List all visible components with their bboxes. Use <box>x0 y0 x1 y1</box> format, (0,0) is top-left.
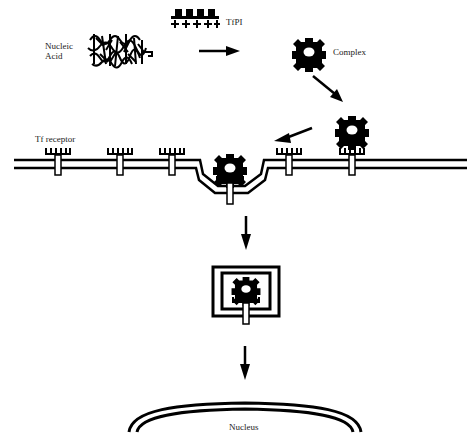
tf-receptor-label: Tf receptor <box>35 134 75 144</box>
complex-bound-gear-icon <box>335 116 369 150</box>
arrow-down-left-icon <box>274 128 312 143</box>
arrow-down-icon-1 <box>241 216 251 250</box>
complex-gear-icon <box>292 38 326 72</box>
tf-receptor-1 <box>45 148 71 175</box>
nucleic-acid-label-line2: Acid <box>45 51 63 61</box>
tf-receptor-4 <box>276 148 302 175</box>
gene-delivery-diagram: Nucleic Acid TfPI Complex <box>0 0 476 443</box>
complex-label: Complex <box>333 47 366 57</box>
arrow-down-icon-2 <box>240 346 250 380</box>
tf-receptor-3 <box>159 148 185 175</box>
arrow-down-right-icon <box>313 76 343 102</box>
nucleic-acid-label-line1: Nucleic <box>45 41 73 51</box>
nucleic-acid-icon <box>88 34 152 68</box>
tfpi-label: TfPI <box>226 17 243 27</box>
nucleus-label: Nucleus <box>229 422 259 432</box>
tfpi-icon <box>171 9 220 28</box>
arrow-right-icon <box>199 46 240 56</box>
tf-receptor-2 <box>107 148 133 175</box>
tf-receptor-5 <box>339 148 365 175</box>
